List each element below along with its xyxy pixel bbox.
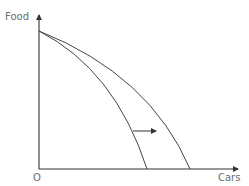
origin-label: O <box>33 172 41 183</box>
original-ppf-curve <box>39 31 147 169</box>
x-axis-label: Cars <box>218 172 240 183</box>
ppf-diagram <box>0 0 249 186</box>
y-axis-label: Food <box>5 11 29 22</box>
